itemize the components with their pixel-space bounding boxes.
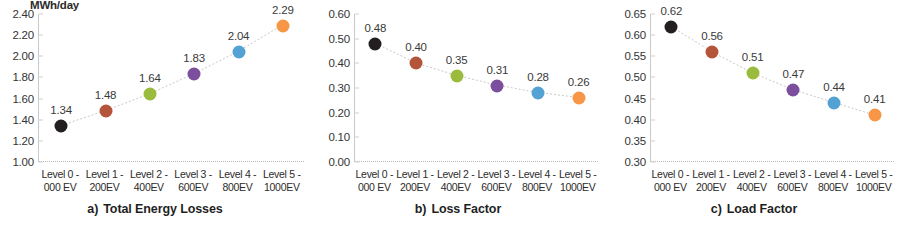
y-tick-label: 0.50 <box>328 33 350 45</box>
data-point-label: 2.04 <box>228 30 250 42</box>
data-point <box>143 88 156 101</box>
x-tick-label: Level 3 -600EV <box>171 168 215 198</box>
data-point <box>232 46 245 59</box>
data-point-label: 0.62 <box>661 5 683 17</box>
y-tick-label: 1.80 <box>12 71 34 83</box>
x-tick-label: Level 2 -400EV <box>127 168 171 198</box>
y-tick-label: 0.65 <box>624 8 646 20</box>
data-point-label: 1.64 <box>139 72 161 84</box>
connector-line-a <box>39 14 304 161</box>
x-tick-label: Level 1 -200EV <box>82 168 126 198</box>
y-tick-mark <box>39 140 43 141</box>
panel-title-a: a)Total Energy Losses <box>0 202 310 216</box>
y-unit-label-a: MWh/day <box>30 0 79 11</box>
y-tick-mark <box>355 88 359 89</box>
y-tick-label: 0.40 <box>624 114 646 126</box>
panel-title-text-a: Total Energy Losses <box>103 202 222 216</box>
data-point <box>410 57 423 70</box>
data-point <box>99 105 112 118</box>
y-axis-a: 1.001.201.401.601.802.002.202.40 <box>0 14 38 162</box>
y-tick-label: 0.20 <box>328 107 350 119</box>
data-point-label: 0.41 <box>864 93 886 105</box>
y-tick-mark <box>651 140 655 141</box>
data-point <box>532 86 545 99</box>
plot-area-b: 0.480.400.350.310.280.26 <box>354 14 598 162</box>
data-point-label: 0.56 <box>701 30 723 42</box>
y-tick-mark <box>39 35 43 36</box>
y-tick-label: 0.55 <box>624 50 646 62</box>
panel-title-b: b)Loss Factor <box>310 202 606 216</box>
data-point-label: 0.28 <box>527 71 549 83</box>
x-tick-label: Level 5 -1000EV <box>260 168 304 198</box>
data-point-label: 0.31 <box>487 64 509 76</box>
plot-wrapper-c: 0.300.350.400.450.500.550.600.65 0.620.5… <box>606 14 902 162</box>
y-tick-mark <box>651 162 655 163</box>
plot-area-c: 0.620.560.510.470.440.41 <box>650 14 894 162</box>
panel-title-prefix-a: a) <box>87 202 98 216</box>
plot-area-a: 1.341.481.641.832.042.29 <box>38 14 304 162</box>
x-tick-label: Level 1 -200EV <box>395 168 436 198</box>
y-tick-label: 1.20 <box>12 135 34 147</box>
x-tick-label: Level 2 -400EV <box>435 168 476 198</box>
y-tick-label: 0.30 <box>328 82 350 94</box>
y-tick-label: 1.00 <box>12 156 34 168</box>
x-axis-labels-a: Level 0 -000 EVLevel 1 -200EVLevel 2 -40… <box>38 168 304 198</box>
y-tick-mark <box>39 98 43 99</box>
x-tick-label: Level 5 -1000EV <box>853 168 894 198</box>
panel-title-text-c: Load Factor <box>727 202 797 216</box>
y-tick-mark <box>39 77 43 78</box>
y-tick-label: 2.00 <box>12 50 34 62</box>
data-point <box>868 109 881 122</box>
data-point-label: 0.26 <box>568 76 590 88</box>
y-tick-label: 2.20 <box>12 29 34 41</box>
y-tick-mark <box>651 56 655 57</box>
y-tick-label: 0.45 <box>624 93 646 105</box>
x-tick-label: Level 0 -000 EV <box>354 168 395 198</box>
data-point <box>450 69 463 82</box>
x-axis-labels-c: Level 0 -000 EVLevel 1 -200EVLevel 2 -40… <box>650 168 894 198</box>
y-tick-mark <box>651 14 655 15</box>
y-tick-mark <box>651 119 655 120</box>
y-axis-b: 0.000.100.200.300.400.500.60 <box>310 14 354 162</box>
y-tick-mark <box>651 77 655 78</box>
x-tick-label: Level 4 -800EV <box>215 168 259 198</box>
panel-title-prefix-c: c) <box>711 202 722 216</box>
connector-line-b <box>355 14 598 161</box>
data-point-label: 0.47 <box>783 68 805 80</box>
y-tick-label: 1.40 <box>12 114 34 126</box>
y-tick-mark <box>355 38 359 39</box>
data-point-label: 1.83 <box>183 52 205 64</box>
panel-title-c: c)Load Factor <box>606 202 902 216</box>
data-point <box>276 19 289 32</box>
data-point <box>369 37 382 50</box>
y-tick-mark <box>355 14 359 15</box>
y-tick-label: 0.40 <box>328 57 350 69</box>
data-point-label: 1.48 <box>95 89 117 101</box>
data-point-label: 0.44 <box>823 81 845 93</box>
x-tick-label: Level 5 -1000EV <box>557 168 598 198</box>
y-tick-label: 0.35 <box>624 135 646 147</box>
y-tick-mark <box>651 98 655 99</box>
y-tick-mark <box>355 162 359 163</box>
y-tick-mark <box>39 56 43 57</box>
y-tick-mark <box>39 14 43 15</box>
connector-line-c <box>651 14 894 161</box>
chart-panel-b: 0.000.100.200.300.400.500.60 0.480.400.3… <box>310 0 606 229</box>
x-tick-label: Level 0 -000 EV <box>38 168 82 198</box>
data-point-label: 0.48 <box>365 22 387 34</box>
data-point <box>491 79 504 92</box>
y-tick-mark <box>355 63 359 64</box>
data-point-label: 0.51 <box>742 51 764 63</box>
panel-title-prefix-b: b) <box>415 202 427 216</box>
data-point-label: 2.29 <box>272 4 294 16</box>
y-tick-mark <box>39 119 43 120</box>
x-tick-label: Level 1 -200EV <box>691 168 732 198</box>
x-tick-label: Level 0 -000 EV <box>650 168 691 198</box>
x-tick-label: Level 2 -400EV <box>731 168 772 198</box>
data-point <box>746 67 759 80</box>
y-tick-label: 0.50 <box>624 71 646 83</box>
x-axis-labels-b: Level 0 -000 EVLevel 1 -200EVLevel 2 -40… <box>354 168 598 198</box>
y-axis-c: 0.300.350.400.450.500.550.600.65 <box>606 14 650 162</box>
panel-title-text-b: Loss Factor <box>431 202 501 216</box>
y-tick-label: 0.10 <box>328 131 350 143</box>
